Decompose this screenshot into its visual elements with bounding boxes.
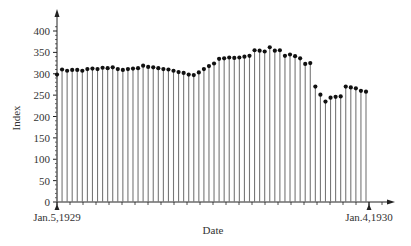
y-tick-label: 350 (34, 46, 51, 58)
stem-marker (313, 84, 317, 88)
stem-marker (247, 54, 251, 58)
stem-marker (95, 67, 99, 71)
stem-marker (318, 93, 322, 97)
stem-marker (359, 89, 363, 93)
y-axis-title: Index (10, 105, 22, 131)
stem-marker (258, 49, 262, 53)
y-tick-label: 50 (39, 175, 51, 187)
stem-chart: 050100150200250300350400 Index Date Jan.… (0, 0, 411, 246)
stem-marker (156, 66, 160, 70)
y-tick-label: 300 (34, 68, 51, 80)
y-tick-label: 150 (34, 132, 51, 144)
stem-marker (273, 49, 277, 53)
stem-marker (182, 71, 186, 75)
stem-marker (237, 55, 241, 59)
x-axis (55, 200, 396, 211)
stem-marker (263, 49, 267, 53)
stem-marker (126, 67, 130, 71)
stem-marker (146, 65, 150, 69)
stem-marker (75, 68, 79, 72)
stem-marker (151, 65, 155, 69)
stem-marker (161, 67, 165, 71)
stem-marker (55, 73, 59, 77)
y-axis: 050100150200250300350400 (34, 9, 60, 208)
stem-marker (339, 94, 343, 98)
stem-marker (349, 85, 353, 89)
stem-marker (354, 86, 358, 90)
stem-marker (293, 54, 297, 58)
stem-marker (111, 65, 115, 69)
stem-marker (364, 90, 368, 94)
y-tick-label: 400 (34, 25, 51, 37)
x-start-label: Jan.5,1929 (33, 211, 81, 223)
y-tick-label: 250 (34, 89, 51, 101)
stem-marker (268, 45, 272, 49)
stem-marker (65, 69, 69, 73)
stem-marker (60, 67, 64, 71)
stem-marker (288, 52, 292, 56)
stem-marker (344, 84, 348, 88)
stem-marker (116, 67, 120, 71)
stem-marker (187, 73, 191, 77)
stem-marker (298, 56, 302, 60)
stem-marker (212, 61, 216, 65)
stem-marker (90, 67, 94, 71)
stem-marker (192, 73, 196, 77)
stem-marker (303, 62, 307, 66)
stem-marker (80, 69, 84, 73)
stem-marker (85, 67, 89, 71)
stem-marker (323, 99, 327, 103)
y-tick-label: 0 (45, 196, 51, 208)
y-tick-label: 100 (34, 153, 51, 165)
stem-marker (283, 54, 287, 58)
stem-marker (171, 69, 175, 73)
stem-marker (308, 61, 312, 65)
stem-marker (217, 57, 221, 61)
x-end-label: Jan.4,1930 (345, 211, 393, 223)
y-tick-label: 200 (34, 111, 51, 123)
stem-marker (232, 56, 236, 60)
stem-marker (222, 56, 226, 60)
stem-marker (141, 64, 145, 68)
stem-marker (252, 48, 256, 52)
stem-marker (121, 68, 125, 72)
stem-marker (242, 55, 246, 59)
stem-marker (100, 66, 104, 70)
data-stems (55, 45, 368, 202)
stem-marker (131, 67, 135, 71)
stem-marker (202, 67, 206, 71)
stem-marker (166, 67, 170, 71)
stem-marker (227, 55, 231, 59)
stem-marker (328, 96, 332, 100)
stem-marker (278, 48, 282, 52)
stem-marker (197, 70, 201, 74)
stem-marker (106, 66, 110, 70)
stem-marker (136, 66, 140, 70)
stem-marker (207, 64, 211, 68)
stem-marker (70, 68, 74, 72)
x-axis-title: Date (203, 224, 224, 236)
stem-marker (334, 95, 338, 99)
stem-marker (176, 70, 180, 74)
